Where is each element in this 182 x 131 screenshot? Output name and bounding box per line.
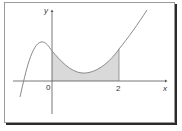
x-axis-arrow-icon	[165, 80, 168, 83]
x-axis-label: x	[163, 84, 167, 93]
y-axis-arrow-icon	[51, 10, 54, 13]
y-axis-label: y	[44, 6, 48, 15]
origin-label: 0	[46, 83, 50, 92]
graph	[0, 0, 182, 131]
shaded-area	[52, 49, 119, 81]
curve	[20, 10, 147, 97]
tick-label-2: 2	[116, 84, 120, 93]
